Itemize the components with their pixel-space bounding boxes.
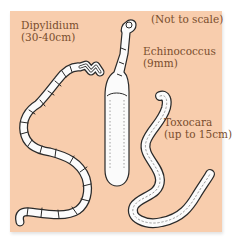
echinococcus-size: (9mm)	[143, 57, 216, 69]
toxocara-name: Toxocara	[164, 116, 232, 128]
dipylidium-name: Dipylidium	[21, 19, 79, 31]
dipylidium-label: Dipylidium (30-40cm)	[21, 19, 79, 43]
dipylidium-drawing	[19, 65, 100, 222]
echinococcus-label: Echinococcus (9mm)	[143, 45, 216, 69]
scale-note: (Not to scale)	[151, 13, 223, 25]
toxocara-label: Toxocara (up to 15cm)	[164, 116, 232, 140]
echinococcus-name: Echinococcus	[143, 45, 216, 57]
echinococcus-drawing	[105, 20, 136, 186]
toxocara-drawing	[133, 96, 210, 223]
dipylidium-size: (30-40cm)	[21, 31, 79, 43]
toxocara-size: (up to 15cm)	[164, 128, 232, 140]
